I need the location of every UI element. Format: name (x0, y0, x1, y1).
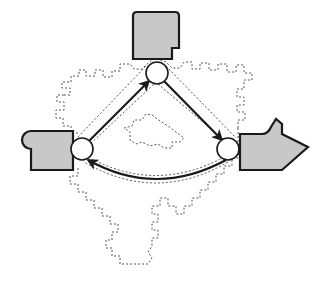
block-right[interactable] (240, 119, 308, 170)
corridor-bottom-inner (88, 157, 224, 176)
diagram-canvas (0, 0, 318, 284)
corridor-left-top-inner (88, 84, 154, 146)
right-gray-arrow-shape[interactable] (240, 119, 308, 170)
inner-dashed-island (124, 114, 184, 148)
node-top[interactable] (146, 62, 168, 84)
corridor-top-right-outer (166, 66, 236, 138)
block-top[interactable] (133, 12, 179, 59)
nodes-layer (71, 62, 239, 160)
node-right[interactable] (217, 138, 239, 160)
edge-top-to-right[interactable] (164, 81, 222, 140)
diagram-svg (0, 0, 318, 284)
inner-island-path (124, 114, 184, 148)
edges-layer (88, 81, 226, 179)
edge-left-to-top[interactable] (89, 81, 149, 141)
block-left[interactable] (22, 131, 73, 170)
edge-right-to-left[interactable] (88, 160, 226, 179)
left-gray-block-shape[interactable] (22, 131, 73, 170)
outer-boundary-upper-left (56, 95, 78, 133)
node-left[interactable] (71, 138, 93, 160)
top-gray-block-shape[interactable] (133, 12, 179, 59)
